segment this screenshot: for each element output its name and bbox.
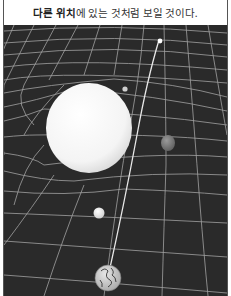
caption: 다른 위치에 있는 것처럼 보일 것이다.: [4, 0, 227, 25]
planet: [161, 135, 175, 151]
earth: [95, 265, 121, 291]
comic-panel: 다른 위치에 있는 것처럼 보일 것이다.: [3, 0, 228, 296]
distant-star: [158, 39, 163, 44]
large-mass: [46, 83, 132, 173]
spacetime-illustration: [4, 25, 227, 296]
small-moon: [122, 86, 127, 91]
small-planet: [94, 208, 105, 219]
caption-bold: 다른 위치: [33, 7, 75, 19]
caption-text: 에 있는 것처럼 보일 것이다.: [76, 7, 198, 19]
